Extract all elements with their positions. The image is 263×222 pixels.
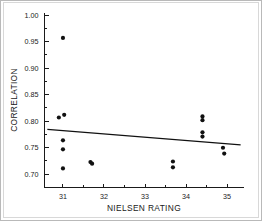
- x-axis-major-ticks: [63, 184, 227, 188]
- y-tick-label: 0.85: [25, 90, 39, 99]
- y-tick-label: 0.95: [25, 37, 39, 46]
- data-point: [221, 146, 225, 150]
- x-tick-label: 35: [223, 192, 231, 201]
- y-tick-label: 0.90: [25, 64, 39, 73]
- data-point: [61, 166, 65, 170]
- data-point: [200, 134, 204, 138]
- data-point: [61, 147, 65, 151]
- regression-trendline: [47, 129, 240, 144]
- x-tick-label: 31: [59, 192, 67, 201]
- y-tick-label: 0.70: [25, 170, 39, 179]
- data-point: [57, 115, 61, 119]
- data-points-group: [57, 36, 227, 171]
- y-axis-major-ticks: [45, 15, 49, 174]
- data-point: [90, 162, 94, 166]
- data-point: [62, 113, 66, 117]
- data-point: [171, 165, 175, 169]
- data-point: [200, 130, 204, 134]
- data-point: [200, 118, 204, 122]
- data-point: [222, 151, 226, 155]
- y-tick-label: 1.00: [25, 11, 39, 20]
- data-point: [61, 36, 65, 40]
- x-axis-title: NIELSEN RATING: [107, 203, 181, 213]
- x-tick-label: 34: [182, 192, 190, 201]
- scatter-plot-figure: 0.700.750.800.850.900.951.00 3132333435 …: [0, 0, 263, 222]
- x-axis-tick-labels: 3132333435: [59, 192, 231, 201]
- data-point: [61, 138, 65, 142]
- x-tick-label: 33: [141, 192, 149, 201]
- x-tick-label: 32: [100, 192, 108, 201]
- y-tick-label: 0.80: [25, 117, 39, 126]
- data-point: [200, 114, 204, 118]
- y-axis-title: CORRELATION: [9, 68, 19, 132]
- y-axis-tick-labels: 0.700.750.800.850.900.951.00: [25, 11, 39, 179]
- plot-canvas: 0.700.750.800.850.900.951.00 3132333435 …: [0, 0, 263, 222]
- y-tick-label: 0.75: [25, 143, 39, 152]
- data-point: [171, 159, 175, 163]
